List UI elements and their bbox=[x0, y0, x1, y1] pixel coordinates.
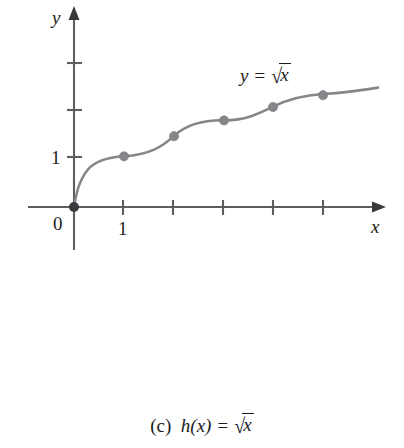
curve-equation-radical: √x bbox=[266, 64, 291, 86]
caption-radicand: x bbox=[242, 413, 253, 434]
x-axis-label: x bbox=[371, 217, 379, 236]
curve-equation-annotation: y = √x bbox=[240, 64, 291, 86]
curve-equation-lhs: y = bbox=[240, 66, 266, 85]
origin-label: 0 bbox=[53, 214, 63, 233]
caption-function-label: h(x) = bbox=[181, 416, 229, 435]
data-point-5-sqrt5 bbox=[318, 91, 327, 100]
y-axis-label: y bbox=[52, 8, 60, 27]
sqrt-curve bbox=[74, 88, 378, 207]
x-tick-label-1: 1 bbox=[118, 219, 128, 238]
caption-index-label: (c) bbox=[150, 416, 171, 435]
figure-page: y x 0 1 1 y = √x (c) h(x) = √x bbox=[0, 0, 404, 448]
data-point-origin bbox=[69, 202, 79, 212]
figure-caption: (c) h(x) = √x bbox=[0, 414, 404, 436]
x-axis-arrow-icon bbox=[372, 202, 386, 213]
data-point-1-1 bbox=[119, 152, 128, 161]
plot-area: y x 0 1 1 y = √x bbox=[0, 0, 404, 270]
data-point-4-2 bbox=[268, 102, 277, 111]
curve-equation-radicand: x bbox=[279, 63, 290, 84]
y-axis-arrow-icon bbox=[69, 6, 80, 20]
y-tick-label-1: 1 bbox=[51, 148, 61, 167]
caption-radical: √x bbox=[229, 414, 254, 436]
data-point-2-sqrt2 bbox=[169, 132, 178, 141]
data-point-3-sqrt3 bbox=[219, 116, 228, 125]
